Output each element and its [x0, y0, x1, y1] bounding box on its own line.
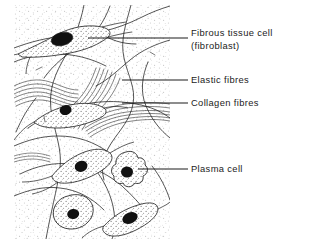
connective-tissue-figure: Fibrous tissue cell (fibroblast) Elastic…	[0, 0, 309, 244]
nucleus	[121, 167, 133, 178]
label-plasma-cell: Plasma cell	[191, 163, 243, 175]
label-fibroblast-parenthetical: (fibroblast)	[191, 40, 239, 52]
label-elastic-fibres: Elastic fibres	[191, 74, 249, 86]
label-fibrous-tissue-cell: Fibrous tissue cell	[191, 27, 273, 39]
label-collagen-fibres: Collagen fibres	[191, 97, 259, 109]
